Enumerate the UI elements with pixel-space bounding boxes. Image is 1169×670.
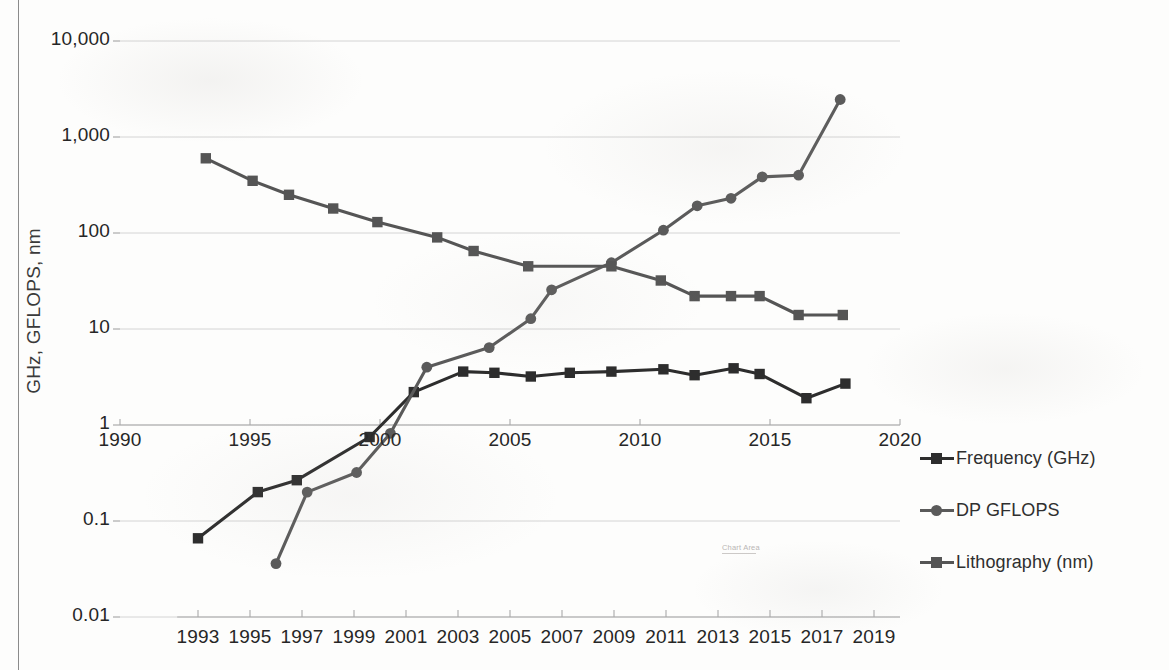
- primary-x-axis-label: 2019: [829, 626, 919, 648]
- secondary-x-axis-label: 2000: [335, 429, 425, 451]
- data-point-marker[interactable]: [728, 363, 738, 373]
- data-point-marker[interactable]: [351, 467, 362, 478]
- data-point-marker[interactable]: [468, 246, 478, 256]
- data-point-marker[interactable]: [793, 310, 803, 320]
- data-point-marker[interactable]: [840, 378, 850, 388]
- y-axis-label: 0.1: [0, 508, 110, 530]
- data-point-marker[interactable]: [253, 487, 263, 497]
- chart-area-tooltip-label: Chart Area: [722, 543, 760, 552]
- data-point-marker[interactable]: [793, 170, 804, 181]
- data-point-marker[interactable]: [284, 190, 294, 200]
- data-point-marker[interactable]: [689, 291, 699, 301]
- data-point-marker[interactable]: [606, 261, 616, 271]
- secondary-x-axis-label: 1995: [205, 429, 295, 451]
- data-point-marker[interactable]: [692, 200, 703, 211]
- y-axis-label: 100: [0, 220, 110, 242]
- chart-area-tooltip: Chart Area: [722, 543, 760, 554]
- data-point-marker[interactable]: [484, 342, 495, 353]
- legend-label-frequency: Frequency (GHz): [956, 448, 1096, 469]
- data-point-marker[interactable]: [754, 369, 764, 379]
- data-point-marker[interactable]: [801, 393, 811, 403]
- data-point-marker[interactable]: [838, 310, 848, 320]
- data-point-marker[interactable]: [458, 366, 468, 376]
- y-axis-label: 0.01: [0, 604, 110, 626]
- chart-area-tooltip-rule: [722, 553, 756, 554]
- legend-label-lithography: Lithography (nm): [956, 552, 1094, 573]
- series-frequency-ghz[interactable]: [193, 363, 851, 543]
- series-lithography-nm[interactable]: [201, 153, 848, 320]
- secondary-x-axis-label: 1990: [75, 429, 165, 451]
- page-left-rule: [18, 0, 19, 670]
- legend-marker-dp-gflops-icon: [920, 503, 954, 517]
- data-point-marker[interactable]: [271, 558, 282, 569]
- legend-label-dp-gflops: DP GFLOPS: [956, 500, 1060, 521]
- series-line: [276, 100, 840, 564]
- legend-item-lithography[interactable]: Lithography (nm): [920, 536, 1160, 588]
- y-axis-label: 1,000: [0, 124, 110, 146]
- data-point-marker[interactable]: [689, 370, 699, 380]
- legend-item-frequency[interactable]: Frequency (GHz): [920, 432, 1160, 484]
- secondary-x-axis-label: 2015: [725, 429, 815, 451]
- data-point-marker[interactable]: [523, 261, 533, 271]
- secondary-x-axis-label: 2005: [465, 429, 555, 451]
- data-point-marker[interactable]: [201, 153, 211, 163]
- legend-marker-lithography-icon: [920, 555, 954, 569]
- data-point-marker[interactable]: [656, 275, 666, 285]
- legend-marker-frequency-icon: [920, 451, 954, 465]
- chart-legend[interactable]: Frequency (GHz) DP GFLOPS Lithography (n…: [920, 432, 1160, 588]
- series-line: [198, 368, 845, 538]
- data-point-marker[interactable]: [489, 368, 499, 378]
- data-point-marker[interactable]: [754, 291, 764, 301]
- data-point-marker[interactable]: [421, 362, 432, 373]
- data-point-marker[interactable]: [726, 193, 737, 204]
- secondary-x-axis-label: 2010: [595, 429, 685, 451]
- series-dp-gflops[interactable]: [271, 94, 846, 569]
- data-point-marker[interactable]: [372, 217, 382, 227]
- data-point-marker[interactable]: [193, 533, 203, 543]
- data-point-marker[interactable]: [328, 203, 338, 213]
- data-point-marker[interactable]: [432, 232, 442, 242]
- data-point-marker[interactable]: [757, 172, 768, 183]
- y-axis-label: 10,000: [0, 28, 110, 50]
- data-point-marker[interactable]: [292, 475, 302, 485]
- data-point-marker[interactable]: [835, 94, 846, 105]
- data-point-marker[interactable]: [565, 368, 575, 378]
- data-point-marker[interactable]: [658, 225, 669, 236]
- data-point-marker[interactable]: [302, 487, 313, 498]
- data-point-marker[interactable]: [658, 364, 668, 374]
- y-axis-title: GHz, GFLOPS, nm: [23, 191, 45, 431]
- y-axis-label: 10: [0, 316, 110, 338]
- data-point-marker[interactable]: [726, 291, 736, 301]
- legend-item-dp-gflops[interactable]: DP GFLOPS: [920, 484, 1160, 536]
- series-line: [206, 158, 843, 315]
- data-point-marker[interactable]: [525, 313, 536, 324]
- data-point-marker[interactable]: [247, 176, 257, 186]
- data-point-marker[interactable]: [606, 366, 616, 376]
- data-point-marker[interactable]: [546, 284, 557, 295]
- data-point-marker[interactable]: [526, 371, 536, 381]
